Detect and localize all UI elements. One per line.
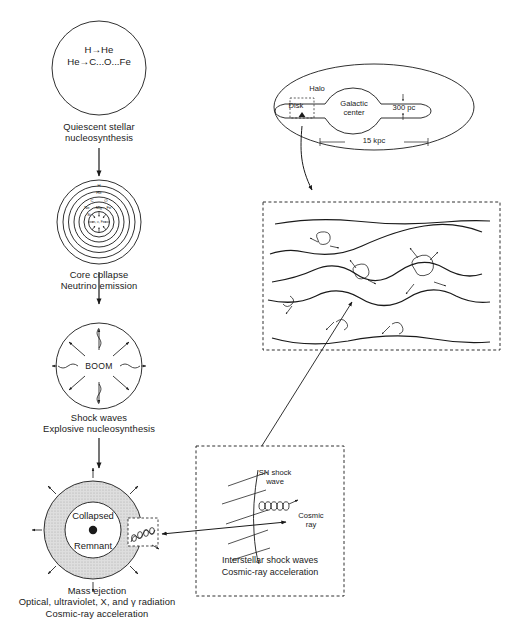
galaxy-sun-marker [299, 112, 306, 117]
shock-inset-caption: Interstellar shock waves Cosmic-ray acce… [198, 555, 342, 578]
stage-quiescent-caption: Quiescent stellar nucleosynthesis [24, 121, 174, 144]
stage-quiescent-reactions: H→HeHe→C...O...Fe [39, 44, 159, 67]
shell-label-o: O [99, 198, 113, 203]
shock-inset-particle-label: Cosmic ray [288, 511, 334, 530]
stage-mass-ejection-caption: Mass ejection Optical, ultraviolet, X, a… [0, 585, 197, 619]
arrow-galaxy-to-ism [301, 126, 312, 190]
stage-core-collapse-caption: Core collapse Neutrino emission [24, 269, 174, 292]
diagram-root: H→HeHe→C...O...Fe Quiescent stellar nucl… [0, 0, 507, 630]
shell-label-h: H [89, 183, 109, 188]
stage-shock-waves-caption: Shock waves Explosive nucleosynthesis [14, 412, 184, 435]
stage-quiescent-circle [52, 21, 146, 115]
shock-inset-shock-label: SN shock wave [246, 468, 304, 487]
core-label-n-nu-fe: n, ν, Fe [84, 220, 114, 224]
galaxy-disk-label: Disk [281, 101, 311, 110]
diagram-canvas [0, 0, 507, 630]
galaxy-radius-label: 15 kpc [348, 136, 400, 145]
shell-label-he: He [89, 190, 109, 195]
reaction-he-to-fe: He→C...O...Fe [67, 56, 130, 67]
shell-label-c: C [85, 198, 99, 203]
galaxy-thickness-label: 300 pc [386, 103, 422, 112]
explosion-boom-label: BOOM [79, 361, 119, 371]
collapsed-remnant-label-top: Collapsed [53, 508, 133, 524]
shell-label-si: Si [82, 212, 96, 217]
stage-mass-ejection [44, 481, 142, 579]
galaxy-center-label: Galactic center [332, 99, 376, 118]
collapsed-remnant-dot [89, 526, 97, 534]
shell-label-fe: Fe [102, 205, 116, 210]
reaction-h-to-he: H→He [85, 44, 114, 55]
galaxy-halo-label: Halo [297, 84, 337, 93]
collapsed-remnant-label-bottom: Remnant [53, 538, 133, 554]
